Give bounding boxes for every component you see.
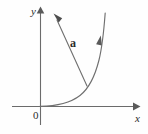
vector-a-line [57,20,87,86]
origin-label: 0 [33,110,39,121]
y-axis [37,7,45,126]
curve-path [40,13,105,106]
x-axis-arrowhead-icon [133,103,141,111]
x-axis-label: x [135,113,140,124]
curve-direction-arrowhead-icon [96,36,102,46]
coordinate-diagram-svg [0,0,148,134]
vector-a-label: a [70,37,76,49]
y-axis-arrowhead-icon [37,7,45,14]
exponential-curve [40,13,105,106]
math-figure-container: y x 0 a [0,0,148,134]
x-axis [12,103,141,111]
y-axis-label: y [31,6,36,17]
